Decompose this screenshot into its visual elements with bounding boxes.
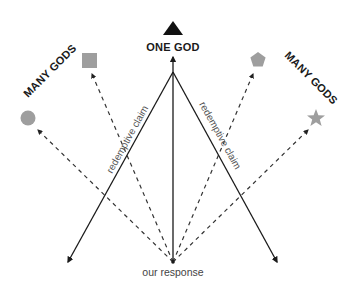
many-gods-right-label: MANY GODS (283, 49, 341, 107)
redemptive-claim-diagram: ONE GOD MANY GODS MANY GODS redemptive c… (0, 0, 347, 293)
square-icon (82, 53, 97, 68)
circle-icon (21, 111, 36, 126)
dashed-arrow-to-pentagon (173, 74, 253, 262)
redemptive-claim-right-arrow (173, 72, 277, 262)
redemptive-claim-left-label: redemptive claim (104, 104, 150, 175)
triangle-icon (163, 21, 183, 35)
our-response-label: our response (142, 266, 203, 278)
redemptive-claim-left-arrow (68, 72, 173, 262)
redemptive-claim-right-label: redemptive claim (197, 100, 243, 171)
dashed-arrow-to-circle (38, 130, 173, 262)
star-icon (307, 109, 325, 126)
origin-point (171, 260, 175, 264)
one-god-label: ONE GOD (146, 41, 199, 53)
pentagon-icon (250, 52, 265, 67)
many-gods-left-label: MANY GODS (21, 42, 79, 100)
